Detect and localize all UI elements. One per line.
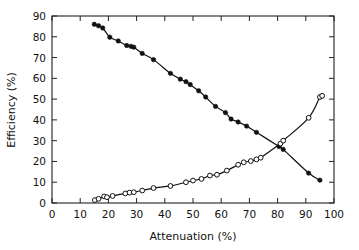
data-point-increasing-efficiency bbox=[131, 190, 136, 195]
data-point-decreasing-efficiency bbox=[281, 147, 285, 151]
data-point-increasing-efficiency bbox=[258, 155, 263, 160]
chart-canvas: 0102030405060708090100 01020304050607080… bbox=[0, 0, 359, 250]
data-point-decreasing-efficiency bbox=[188, 82, 192, 86]
data-point-decreasing-efficiency bbox=[151, 57, 155, 61]
y-tick-label: 60 bbox=[33, 72, 46, 84]
y-axis-title: Efficiency (%) bbox=[5, 72, 18, 148]
y-tick-label: 0 bbox=[39, 197, 46, 209]
y-tick-label: 50 bbox=[33, 93, 46, 105]
x-tick-label: 30 bbox=[130, 208, 143, 220]
y-tick-label: 10 bbox=[33, 176, 46, 188]
x-tick-label: 10 bbox=[74, 208, 87, 220]
data-point-decreasing-efficiency bbox=[96, 24, 100, 28]
data-point-decreasing-efficiency bbox=[168, 71, 172, 75]
data-point-increasing-efficiency bbox=[151, 186, 156, 191]
y-tick-label: 30 bbox=[33, 135, 46, 147]
data-point-increasing-efficiency bbox=[191, 178, 196, 183]
data-point-decreasing-efficiency bbox=[140, 51, 144, 55]
data-point-decreasing-efficiency bbox=[203, 95, 207, 99]
y-axis-tick-labels: 0102030405060708090 bbox=[33, 10, 46, 209]
x-axis-tick-labels: 0102030405060708090100 bbox=[49, 208, 344, 220]
chart-figure: 0102030405060708090100 01020304050607080… bbox=[0, 0, 359, 250]
data-point-decreasing-efficiency bbox=[92, 22, 96, 26]
data-point-increasing-efficiency bbox=[320, 93, 325, 98]
data-point-increasing-efficiency bbox=[184, 180, 189, 185]
x-axis-title: Attenuation (%) bbox=[149, 230, 236, 243]
y-tick-label: 70 bbox=[33, 52, 46, 64]
data-point-decreasing-efficiency bbox=[254, 130, 258, 134]
data-point-decreasing-efficiency bbox=[229, 117, 233, 121]
data-point-decreasing-efficiency bbox=[101, 26, 105, 30]
y-tick-label: 80 bbox=[33, 31, 46, 43]
data-point-increasing-efficiency bbox=[236, 162, 241, 167]
x-tick-label: 70 bbox=[243, 208, 256, 220]
data-point-decreasing-efficiency bbox=[306, 171, 310, 175]
data-point-decreasing-efficiency bbox=[132, 45, 136, 49]
data-point-increasing-efficiency bbox=[248, 159, 253, 164]
x-tick-label: 80 bbox=[271, 208, 284, 220]
data-point-increasing-efficiency bbox=[241, 160, 246, 165]
data-point-increasing-efficiency bbox=[224, 168, 229, 173]
data-point-decreasing-efficiency bbox=[236, 120, 240, 124]
data-point-increasing-efficiency bbox=[306, 115, 311, 120]
y-tick-label: 40 bbox=[33, 114, 46, 126]
data-point-decreasing-efficiency bbox=[178, 77, 182, 81]
data-point-increasing-efficiency bbox=[140, 188, 145, 193]
data-point-decreasing-efficiency bbox=[318, 178, 322, 182]
y-tick-label: 90 bbox=[33, 10, 46, 22]
x-tick-label: 20 bbox=[102, 208, 115, 220]
data-point-increasing-efficiency bbox=[215, 172, 220, 177]
x-tick-label: 90 bbox=[299, 208, 312, 220]
data-point-decreasing-efficiency bbox=[196, 89, 200, 93]
data-point-decreasing-efficiency bbox=[223, 110, 227, 114]
data-point-increasing-efficiency bbox=[199, 177, 204, 182]
data-point-decreasing-efficiency bbox=[116, 39, 120, 43]
y-tick-label: 20 bbox=[33, 155, 46, 167]
data-point-decreasing-efficiency bbox=[184, 79, 188, 83]
data-point-decreasing-efficiency bbox=[108, 35, 112, 39]
data-point-increasing-efficiency bbox=[281, 138, 286, 143]
data-point-increasing-efficiency bbox=[105, 195, 110, 200]
x-tick-label: 100 bbox=[324, 208, 344, 220]
data-point-increasing-efficiency bbox=[110, 194, 115, 199]
data-point-increasing-efficiency bbox=[208, 173, 213, 178]
plot-background bbox=[52, 16, 334, 203]
x-tick-label: 0 bbox=[49, 208, 56, 220]
data-point-increasing-efficiency bbox=[168, 184, 173, 189]
data-point-decreasing-efficiency bbox=[244, 124, 248, 128]
data-point-decreasing-efficiency bbox=[213, 104, 217, 108]
x-tick-label: 50 bbox=[186, 208, 199, 220]
x-tick-label: 60 bbox=[215, 208, 228, 220]
data-point-increasing-efficiency bbox=[96, 196, 101, 201]
data-point-decreasing-efficiency bbox=[125, 43, 129, 47]
x-tick-label: 40 bbox=[158, 208, 171, 220]
